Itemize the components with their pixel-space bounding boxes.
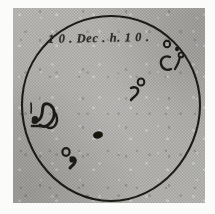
sunspot-hook-head bbox=[179, 53, 184, 58]
spot-group-upper-right-limb bbox=[161, 41, 184, 70]
sunspot-ring bbox=[164, 41, 170, 48]
sunspot-dot bbox=[175, 47, 179, 52]
sunspot-ring bbox=[62, 148, 69, 156]
sunspot-comma bbox=[131, 87, 138, 100]
spot-group-lower-left bbox=[62, 148, 75, 168]
spot-group-upper-right-inner bbox=[131, 78, 144, 100]
spot-group-central bbox=[92, 130, 103, 139]
sunspot-companion-core bbox=[69, 157, 74, 162]
spot-group-west-serpentine bbox=[31, 103, 57, 128]
sunspot-ring bbox=[138, 78, 145, 85]
sunspot-crescent bbox=[161, 56, 171, 69]
observation-date-inscription: 1 0 . Dec . h. 1 0 . bbox=[48, 30, 150, 47]
sunspot-drawing-page: 1 0 . Dec . h. 1 0 . bbox=[0, 0, 215, 214]
sunspot-hook bbox=[175, 57, 180, 69]
sunspot-core bbox=[92, 130, 103, 139]
